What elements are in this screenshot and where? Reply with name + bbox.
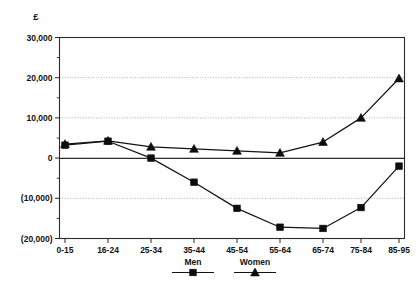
y-tick-label: 0 [48, 153, 53, 163]
legend-marker [190, 269, 197, 276]
y-tick-label: (10,000) [21, 193, 53, 203]
x-tick-label: 25-34 [140, 245, 162, 255]
data-point-marker [358, 204, 365, 211]
x-tick-label: 0-15 [56, 245, 73, 255]
chart-container: £ 30,00020,00010,0000(10,000)(20,000) 0-… [0, 0, 419, 286]
y-tick-label: (20,000) [21, 234, 53, 244]
y-axis: 30,00020,00010,0000(10,000)(20,000) [21, 33, 60, 244]
x-tick-label: 55-64 [269, 245, 291, 255]
legend-item-women: Women [234, 257, 276, 276]
x-tick-label: 45-54 [226, 245, 248, 255]
y-tick-label: 30,000 [27, 33, 53, 43]
chart-legend: MenWomen [172, 257, 276, 276]
legend-item-men: Men [172, 257, 214, 276]
x-tick-label: 75-84 [350, 245, 372, 255]
data-point-marker [191, 179, 198, 186]
data-point-marker [395, 74, 404, 82]
data-point-marker [277, 224, 284, 231]
data-series-layer [61, 74, 404, 232]
y-tick-label: 20,000 [27, 73, 53, 83]
x-tick-label: 85-95 [388, 245, 410, 255]
series-women [61, 74, 404, 156]
data-point-marker [319, 138, 328, 146]
data-point-marker [148, 155, 155, 162]
series-line [65, 79, 399, 153]
x-tick-label: 35-44 [183, 245, 205, 255]
line-chart: £ 30,00020,00010,0000(10,000)(20,000) 0-… [0, 0, 419, 286]
y-tick-label: 10,000 [27, 113, 53, 123]
series-men [62, 138, 403, 232]
y-axis-unit-label: £ [33, 11, 39, 22]
x-tick-label: 65-74 [312, 245, 334, 255]
x-axis: 0-1516-2425-3435-4445-5455-6465-7475-848… [56, 239, 410, 256]
legend-label: Men [185, 257, 202, 267]
series-line [65, 141, 399, 228]
data-point-marker [396, 163, 403, 170]
x-tick-label: 16-24 [97, 245, 119, 255]
data-point-marker [234, 205, 241, 212]
data-point-marker [320, 225, 327, 232]
legend-label: Women [240, 257, 271, 267]
